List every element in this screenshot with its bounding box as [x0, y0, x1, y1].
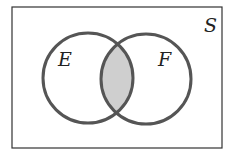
- venn-diagram: E F S: [0, 0, 237, 154]
- label-e: E: [57, 48, 72, 70]
- label-f: F: [157, 48, 172, 70]
- label-s: S: [204, 14, 217, 36]
